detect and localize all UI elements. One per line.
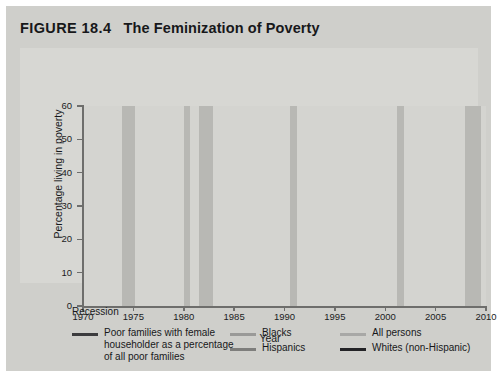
legend-swatch: [230, 333, 256, 336]
plot-card: 0102030405060 19701975198019851990199520…: [20, 48, 478, 283]
legend-swatch: [340, 333, 366, 336]
legend-swatch: [230, 348, 256, 351]
legend-label: All persons: [372, 327, 421, 339]
legend-label: Whites (non-Hispanic): [372, 342, 470, 354]
legend: Recession Poor families with female hous…: [20, 306, 480, 366]
recession-band: [184, 106, 190, 306]
recession-band: [397, 106, 404, 306]
legend-swatch: [340, 348, 366, 351]
page-title: FIGURE 18.4 The Feminization of Poverty: [20, 20, 320, 36]
figure-container: FIGURE 18.4 The Feminization of Poverty …: [6, 6, 491, 371]
recession-band: [290, 106, 297, 306]
y-tick-mark: [77, 272, 82, 274]
y-tick-mark: [77, 239, 82, 241]
y-axis-title: Percentage living in poverty: [52, 74, 64, 274]
legend-recession-label: Recession: [72, 306, 119, 317]
legend-label: Hispanics: [262, 342, 305, 354]
legend-swatch: [72, 333, 98, 336]
legend-label: Poor families with female householder as…: [104, 327, 234, 364]
y-tick-mark: [77, 172, 82, 174]
recession-band: [465, 106, 481, 306]
legend-label: Blacks: [262, 327, 291, 339]
figure-title: The Feminization of Poverty: [124, 20, 320, 36]
y-axis-line: [82, 105, 84, 307]
y-tick-mark: [77, 105, 82, 107]
plot-background: [83, 106, 486, 306]
y-tick-mark: [77, 139, 82, 141]
y-tick-mark: [77, 205, 82, 207]
plot-area: [83, 106, 486, 306]
recession-band: [199, 106, 213, 306]
figure-number: FIGURE 18.4: [20, 20, 111, 36]
figure-title-bar: FIGURE 18.4 The Feminization of Poverty: [6, 20, 491, 44]
recession-band: [122, 106, 135, 306]
